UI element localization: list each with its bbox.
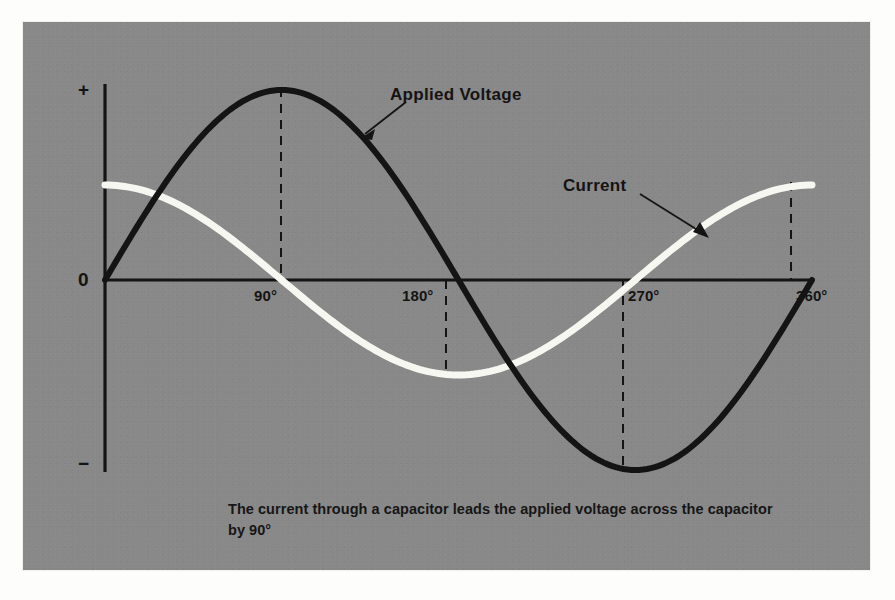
x-tick-90: 90°	[254, 288, 277, 303]
x-tick-360: 360°	[796, 288, 827, 303]
x-tick-180: 180°	[402, 288, 433, 303]
y-axis-zero-label: 0	[78, 270, 89, 289]
x-tick-270: 270°	[628, 288, 659, 303]
figure-caption: The current through a capacitor leads th…	[228, 499, 788, 541]
applied-voltage-label: Applied Voltage	[390, 86, 522, 103]
figure-root: + 0 − 90° 180° 270° 360° Applied Voltage…	[0, 0, 895, 600]
waveform-chart	[23, 22, 870, 570]
y-axis-minus-label: −	[78, 454, 89, 473]
current-label: Current	[563, 177, 627, 194]
y-axis-plus-label: +	[78, 80, 89, 99]
voltage-leader-arrow	[361, 102, 406, 140]
plot-panel: + 0 − 90° 180° 270° 360° Applied Voltage…	[23, 22, 870, 570]
current-leader-arrow	[640, 194, 709, 238]
